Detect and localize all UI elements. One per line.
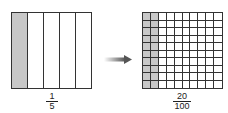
hundredth-cell xyxy=(151,28,159,36)
hundredth-cell xyxy=(198,21,206,29)
hundredth-cell xyxy=(143,28,151,36)
denominator: 100 xyxy=(173,102,191,111)
hundredth-cell xyxy=(214,21,222,29)
hundredth-cell xyxy=(159,13,167,21)
fifth-strip xyxy=(12,13,28,88)
hundredth-cell xyxy=(198,28,206,36)
hundredth-cell xyxy=(151,36,159,44)
hundredth-cell xyxy=(190,28,198,36)
hundredth-cell xyxy=(198,73,206,81)
hundredth-cell xyxy=(167,66,175,74)
hundredth-cell xyxy=(183,21,191,29)
hundredth-cell xyxy=(143,66,151,74)
hundredth-cell xyxy=(159,51,167,59)
hundredth-cell xyxy=(183,28,191,36)
hundredth-cell xyxy=(206,73,214,81)
hundredth-cell xyxy=(175,36,183,44)
hundredth-cell xyxy=(206,28,214,36)
hundredth-cell xyxy=(214,58,222,66)
hundredth-cell xyxy=(214,43,222,51)
hundredth-cell xyxy=(159,36,167,44)
hundredth-cell xyxy=(214,66,222,74)
hundredth-cell xyxy=(159,81,167,89)
hundredth-cell xyxy=(206,58,214,66)
hundredth-cell xyxy=(198,13,206,21)
hundredth-cell xyxy=(175,13,183,21)
hundredth-cell xyxy=(175,43,183,51)
hundredth-cell xyxy=(167,43,175,51)
hundredth-cell xyxy=(214,36,222,44)
hundredth-cell xyxy=(151,58,159,66)
hundredth-cell xyxy=(214,73,222,81)
hundredth-cell xyxy=(198,81,206,89)
hundredth-cell xyxy=(183,81,191,89)
hundredth-cell xyxy=(206,43,214,51)
fraction-one-fifth: 1 5 xyxy=(46,92,58,111)
hundredth-cell xyxy=(175,21,183,29)
hundredth-cell xyxy=(198,58,206,66)
hundredth-cell xyxy=(175,81,183,89)
hundredth-cell xyxy=(206,81,214,89)
hundredth-cell xyxy=(167,81,175,89)
hundredth-cell xyxy=(143,81,151,89)
hundredth-cell xyxy=(183,73,191,81)
hundredth-cell xyxy=(143,21,151,29)
hundredth-cell xyxy=(167,13,175,21)
hundredth-cell xyxy=(143,36,151,44)
hundredth-cell xyxy=(190,73,198,81)
right-arrow-icon xyxy=(104,55,132,64)
hundredth-cell xyxy=(206,51,214,59)
hundredth-cell xyxy=(190,43,198,51)
hundredth-cell xyxy=(190,13,198,21)
hundredth-cell xyxy=(143,51,151,59)
hundredth-cell xyxy=(206,13,214,21)
denominator: 5 xyxy=(46,102,58,111)
hundredth-cell xyxy=(183,43,191,51)
hundredth-cell xyxy=(159,43,167,51)
hundredth-cell xyxy=(143,73,151,81)
hundredth-cell xyxy=(214,13,222,21)
hundredth-cell xyxy=(143,13,151,21)
hundredth-cell xyxy=(159,28,167,36)
hundredth-cell xyxy=(206,21,214,29)
hundredth-cell xyxy=(175,51,183,59)
hundredth-cell xyxy=(151,81,159,89)
hundredth-cell xyxy=(183,66,191,74)
hundredth-cell xyxy=(206,36,214,44)
fifth-strip xyxy=(44,13,60,88)
hundredth-cell xyxy=(151,51,159,59)
hundredth-cell xyxy=(143,58,151,66)
hundredth-cell xyxy=(175,28,183,36)
hundredth-cell xyxy=(183,51,191,59)
hundredth-cell xyxy=(159,58,167,66)
hundredth-cell xyxy=(206,66,214,74)
hundredth-cell xyxy=(214,28,222,36)
hundredth-cell xyxy=(214,51,222,59)
hundredth-cell xyxy=(151,73,159,81)
hundredth-cell xyxy=(190,58,198,66)
hundredth-cell xyxy=(159,21,167,29)
hundredth-cell xyxy=(183,36,191,44)
hundredth-cell xyxy=(167,51,175,59)
hundredth-cell xyxy=(151,43,159,51)
hundredth-cell xyxy=(198,36,206,44)
hundredth-cell xyxy=(167,28,175,36)
hundredth-cell xyxy=(175,58,183,66)
hundredth-cell xyxy=(198,43,206,51)
hundredth-cell xyxy=(167,58,175,66)
hundredth-cell xyxy=(190,21,198,29)
hundredth-cell xyxy=(167,36,175,44)
hundredth-cell xyxy=(151,66,159,74)
fifth-strip xyxy=(60,13,76,88)
hundredth-cell xyxy=(214,81,222,89)
hundredth-cell xyxy=(190,81,198,89)
hundredth-cell xyxy=(151,13,159,21)
hundredth-cell xyxy=(143,43,151,51)
hundredth-cell xyxy=(198,66,206,74)
hundredth-cell xyxy=(190,51,198,59)
hundredth-cell xyxy=(190,66,198,74)
hundredth-cell xyxy=(151,21,159,29)
hundredth-cell xyxy=(183,58,191,66)
hundredth-cell xyxy=(190,36,198,44)
fifth-strip xyxy=(28,13,44,88)
